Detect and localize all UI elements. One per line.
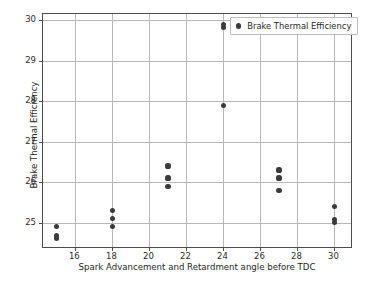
legend-label: Brake Thermal Efficiency [247,21,351,31]
gridline-vertical [186,14,187,247]
data-point [54,224,59,229]
gridline-vertical [223,14,224,247]
y-axis-title: Brake Thermal Efficiency [29,55,39,215]
data-point [276,188,281,193]
gridline-horizontal [43,142,351,143]
x-tick-label: 26 [254,251,265,261]
plot-area [42,13,352,248]
data-point [165,175,170,180]
gridline-horizontal [43,61,351,62]
gridline-vertical [297,14,298,247]
data-point [110,224,115,229]
x-tick-label: 30 [328,251,339,261]
data-point [165,163,170,168]
x-tick-label: 28 [291,251,302,261]
data-point [221,103,226,108]
x-tick-label: 20 [143,251,154,261]
data-point [110,216,115,221]
chart-legend: Brake Thermal Efficiency [230,17,358,35]
data-point [110,208,115,213]
x-axis-title: Spark Advancement and Retardment angle b… [42,262,352,272]
y-tick-label: 30 [36,14,47,24]
gridline-vertical [75,14,76,247]
x-tick-label: 18 [106,251,117,261]
data-point [276,167,281,172]
data-point [276,175,281,180]
x-tick-label: 22 [180,251,191,261]
x-tick-label: 16 [69,251,80,261]
gridline-horizontal [43,182,351,183]
figure-caption [0,274,370,287]
gridline-vertical [260,14,261,247]
gridline-horizontal [43,223,351,224]
x-tick-label: 24 [217,251,228,261]
data-point [165,184,170,189]
legend-marker-icon [236,23,241,28]
gridline-vertical [334,14,335,247]
gridline-vertical [149,14,150,247]
gridline-horizontal [43,101,351,102]
data-point [332,204,337,209]
data-point [332,220,337,225]
scatter-chart-figure: 1618202224262830 252627282930 Spark Adva… [0,0,370,287]
data-point [221,25,226,30]
data-point [54,235,59,240]
y-tick-label: 25 [36,217,47,227]
